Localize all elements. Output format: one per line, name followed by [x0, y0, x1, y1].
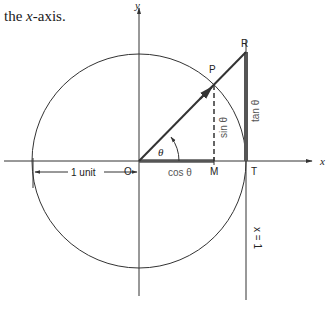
point-p-label: P	[209, 64, 216, 75]
angle-arc	[171, 137, 179, 161]
ray-arrow-p	[200, 87, 212, 99]
unit-circle-diagram: y x O P R M T cos θ θ sin θ tan θ x = 1 …	[0, 0, 329, 310]
unit-label: 1 unit	[71, 167, 96, 178]
cos-label: cos θ	[168, 167, 192, 178]
point-t-label: T	[251, 166, 257, 177]
sin-label: sin θ	[218, 116, 229, 138]
x-axis-label: x	[319, 155, 325, 167]
theta-label: θ	[158, 146, 164, 158]
y-axis-label: y	[134, 0, 140, 11]
point-m-label: M	[210, 166, 218, 177]
origin-label: O	[124, 166, 132, 177]
tan-label: tan θ	[250, 99, 261, 122]
line-x1-label: x = 1	[252, 227, 263, 249]
point-r-label: R	[241, 38, 248, 49]
